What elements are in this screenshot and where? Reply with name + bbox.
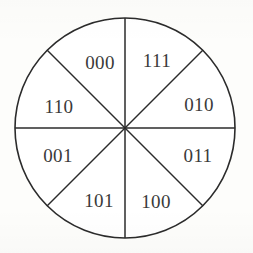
sector-label-011: 011 xyxy=(184,146,213,165)
sector-label-110: 110 xyxy=(45,97,74,116)
sector-label-100: 100 xyxy=(141,192,171,211)
sector-label-001: 001 xyxy=(43,146,73,165)
sector-label-111: 111 xyxy=(143,51,171,70)
center-point xyxy=(124,127,126,129)
circle-sectors-diagram xyxy=(0,0,253,253)
sector-label-010: 010 xyxy=(184,95,214,114)
sector-label-101: 101 xyxy=(84,191,114,210)
figure-container: 000 111 110 010 001 011 101 100 xyxy=(0,0,253,253)
sector-label-000: 000 xyxy=(85,53,115,72)
